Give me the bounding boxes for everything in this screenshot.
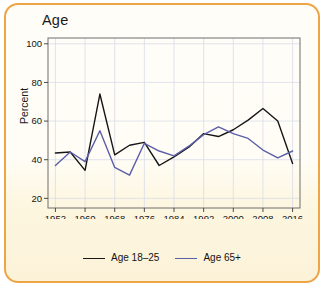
svg-text:60: 60 (31, 115, 42, 126)
legend-label-age-65-plus: Age 65+ (203, 253, 241, 263)
svg-text:80: 80 (31, 77, 42, 88)
svg-text:20: 20 (31, 193, 42, 204)
page-title: Age (42, 12, 68, 28)
x-axis-ticks: 195219601968197619841992200020082016 (45, 208, 303, 219)
svg-text:100: 100 (26, 38, 42, 49)
legend-swatch-age-65-plus (175, 258, 197, 259)
line-chart-svg: 20406080100 1952196019681976198419922000… (22, 29, 310, 219)
svg-text:1952: 1952 (45, 213, 66, 219)
y-axis-ticks: 20406080100 (26, 38, 48, 204)
svg-text:2008: 2008 (252, 213, 273, 219)
legend-item-age-18-25: Age 18–25 (83, 253, 159, 263)
svg-text:40: 40 (31, 154, 42, 165)
svg-text:1984: 1984 (163, 213, 184, 219)
svg-text:1960: 1960 (74, 213, 95, 219)
svg-text:1968: 1968 (104, 213, 125, 219)
plot-area: 20406080100 1952196019681976198419922000… (22, 29, 310, 219)
legend-label-age-18-25: Age 18–25 (111, 253, 159, 263)
svg-text:2016: 2016 (282, 213, 303, 219)
chart-legend: Age 18–25 Age 65+ (6, 253, 318, 263)
grid-lines (48, 38, 300, 208)
chart-card: Age Percent 20406080100 1952196019681976… (4, 3, 320, 283)
legend-item-age-65-plus: Age 65+ (175, 253, 241, 263)
legend-swatch-age-18-25 (83, 258, 105, 259)
svg-text:1992: 1992 (193, 213, 214, 219)
svg-text:2000: 2000 (223, 213, 244, 219)
svg-text:1976: 1976 (134, 213, 155, 219)
